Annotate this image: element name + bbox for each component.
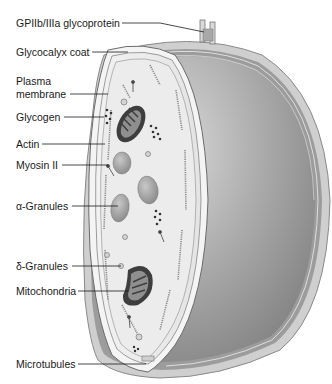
label-membrane: membrane xyxy=(16,88,66,100)
label-actin: Actin xyxy=(16,138,39,150)
label-glycocalyx-coat: Glycocalyx coat xyxy=(16,46,90,58)
label-plasma: Plasma xyxy=(16,75,51,87)
microtubule-coil xyxy=(142,356,154,361)
label-mitochondria: Mitochondria xyxy=(16,285,76,297)
label-gpiib-glycoprotein: GPIIb/IIIa glycoprotein xyxy=(16,17,120,29)
label-microtubules: Microtubules xyxy=(16,358,76,370)
label-myosin-ii: Myosin II xyxy=(16,159,58,171)
label-glycogen: Glycogen xyxy=(16,111,60,123)
label-alpha-granules: α-Granules xyxy=(16,200,68,212)
label-delta-granules: δ-Granules xyxy=(16,260,68,272)
